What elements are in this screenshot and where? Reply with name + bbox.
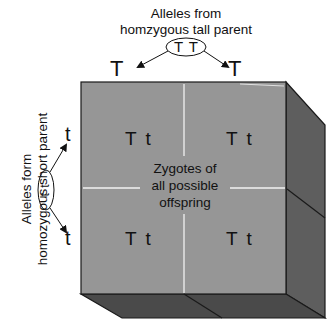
top-allele-1: T — [110, 58, 123, 80]
arrow-to-top-t — [50, 145, 66, 172]
top-parent-label-line1: Alleles from — [100, 6, 272, 22]
center-label: Zygotes of all possible offspring — [140, 160, 230, 213]
arrow-to-bottom-t — [50, 208, 66, 232]
left-parent-genotype: t t — [39, 183, 51, 196]
center-label-line2: all possible — [140, 178, 230, 195]
top-parent-genotype: T T — [174, 39, 199, 54]
left-allele-1: t — [65, 124, 71, 144]
left-parent-label-line1: Alleles form — [19, 94, 35, 284]
cube-right-face — [286, 82, 325, 318]
top-allele-2: T — [228, 58, 241, 80]
left-allele-2: t — [65, 228, 71, 248]
cell-genotype-r0c1: T t — [226, 129, 254, 148]
top-parent-label: Alleles from homzygous tall parent — [100, 6, 272, 37]
arrow-to-left-T — [138, 51, 168, 67]
cell-genotype-r1c1: T t — [226, 229, 254, 248]
arrow-to-right-T — [204, 51, 228, 67]
center-label-line3: offspring — [140, 195, 230, 212]
cell-genotype-r0c0: T t — [125, 129, 153, 148]
top-parent-label-line2: homzygous tall parent — [100, 22, 272, 38]
cell-genotype-r1c0: T t — [125, 229, 153, 248]
center-label-line1: Zygotes of — [140, 161, 230, 178]
